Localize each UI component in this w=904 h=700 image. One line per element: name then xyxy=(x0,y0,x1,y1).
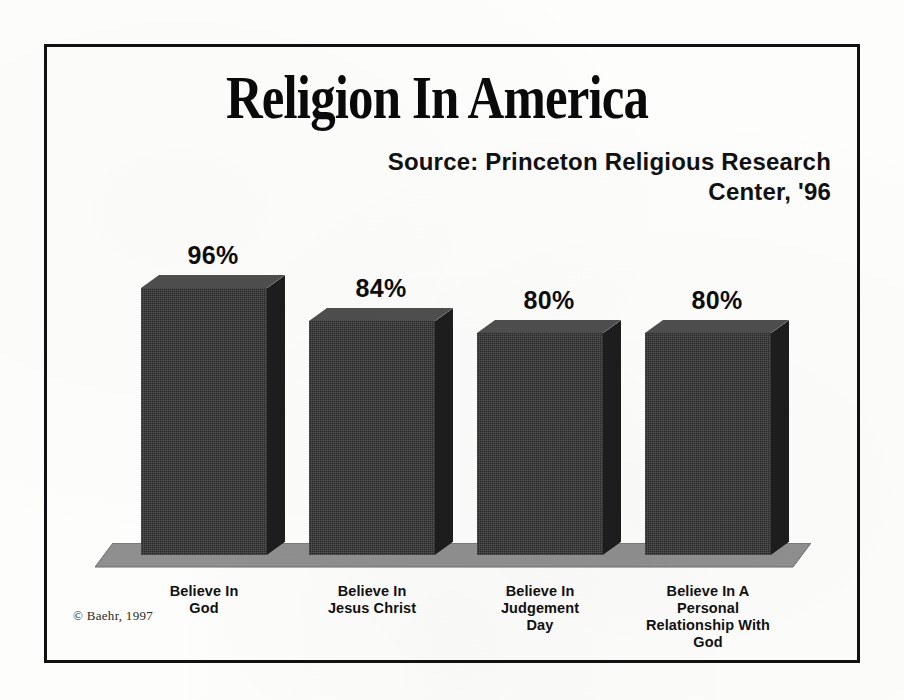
bar-side-shape xyxy=(771,320,789,555)
bar-top-face xyxy=(477,320,621,333)
bar xyxy=(309,321,435,555)
category-label: Believe In APersonalRelationship WithGod xyxy=(631,583,785,651)
bar-side-face xyxy=(771,333,789,555)
bar-front-face xyxy=(645,333,771,555)
scanned-page: Religion In America Source: Princeton Re… xyxy=(0,0,904,700)
bar-front-face xyxy=(141,288,267,555)
bar-top-face xyxy=(645,320,789,333)
category-label-line: Day xyxy=(463,617,617,634)
bar-side-shape xyxy=(603,320,621,555)
bar xyxy=(477,333,603,555)
bar-side-face xyxy=(603,333,621,555)
bar-value-label: 96% xyxy=(150,241,276,270)
category-label-line: Personal xyxy=(631,600,785,617)
bar-top-shape xyxy=(309,308,453,321)
category-label-line: Jesus Christ xyxy=(295,600,449,617)
bar-front-face xyxy=(309,321,435,555)
bar-side-shape xyxy=(435,308,453,555)
bar-value-label: 80% xyxy=(486,286,612,315)
category-label-line: Believe In xyxy=(295,583,449,600)
bar-top-face xyxy=(309,308,453,321)
category-label-line: Believe In xyxy=(463,583,617,600)
bar xyxy=(645,333,771,555)
category-label: Believe InJesus Christ xyxy=(295,583,449,617)
bar-side-face xyxy=(267,288,285,555)
plot-area: 96%84%80%80% Believe InGodBelieve InJesu… xyxy=(47,47,857,660)
category-label-line: God xyxy=(631,634,785,651)
category-label-line: Relationship With xyxy=(631,617,785,634)
category-label-line: Believe In xyxy=(127,583,281,600)
bar xyxy=(141,288,267,555)
chart-frame: Religion In America Source: Princeton Re… xyxy=(44,44,860,663)
bar-top-shape xyxy=(141,275,285,288)
category-label: Believe InJudgementDay xyxy=(463,583,617,634)
bar-top-shape xyxy=(645,320,789,333)
bar-front-face xyxy=(477,333,603,555)
bar-top-face xyxy=(141,275,285,288)
bar-side-shape xyxy=(267,275,285,555)
bar-value-label: 80% xyxy=(654,286,780,315)
category-label-line: Believe In A xyxy=(631,583,785,600)
bar-top-shape xyxy=(477,320,621,333)
bar-value-label: 84% xyxy=(318,274,444,303)
bar-side-face xyxy=(435,321,453,555)
category-label-line: Judgement xyxy=(463,600,617,617)
copyright-note: © Baehr, 1997 xyxy=(73,608,153,624)
